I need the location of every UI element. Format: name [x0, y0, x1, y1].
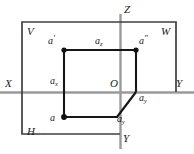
marker-a-double-prime [133, 47, 138, 52]
point-label-a-double-prime: a″ [139, 36, 148, 46]
point-label-a-y: ay [139, 93, 147, 103]
marker-a [61, 114, 67, 120]
point-label-a-x-sub: x [55, 80, 58, 87]
point-label-a-y-sub: y [144, 97, 147, 104]
point-label-a-y-horizontal: ay [117, 114, 125, 124]
point-label-a-base: a [50, 112, 55, 123]
axis-label-y-right: Y [176, 78, 182, 89]
plane-label-h: H [27, 126, 35, 137]
axis-label-y-bottom: Y [123, 133, 129, 144]
point-label-a-prime: a' [48, 36, 55, 46]
lower-plane-frame [22, 92, 120, 134]
plane-label-v: V [27, 26, 34, 37]
projection-diagram: V W H Z X Y Y O a' a″ a az ax ay ay [0, 0, 194, 154]
axis-label-x: X [5, 78, 12, 89]
point-label-a-x: ax [50, 76, 58, 86]
upper-plane-frame [22, 22, 176, 92]
point-label-a-z: az [95, 36, 103, 46]
plane-label-w: W [161, 26, 170, 37]
point-label-a-prime-mark: ' [53, 33, 55, 43]
axis-label-z: Z [124, 4, 130, 15]
point-label-a-y-horizontal-sub: y [122, 118, 125, 125]
marker-a-prime [61, 47, 66, 52]
point-label-a: a [50, 113, 55, 123]
point-label-a-z-sub: z [100, 40, 103, 47]
origin-label: O [110, 78, 118, 89]
point-label-a-double-prime-mark: ″ [144, 33, 148, 43]
